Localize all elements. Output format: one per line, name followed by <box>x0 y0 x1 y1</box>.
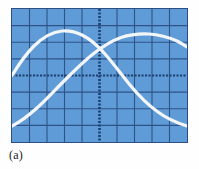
oscilloscope-figure: (a) <box>0 0 199 169</box>
oscilloscope-screen <box>11 8 188 143</box>
figure-caption: (a) <box>9 148 23 163</box>
waveform-display <box>12 9 187 142</box>
